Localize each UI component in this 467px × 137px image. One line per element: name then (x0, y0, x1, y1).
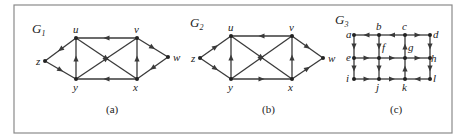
node-label-x: x (132, 81, 138, 93)
node-label-w: w (173, 51, 181, 63)
node-label-d: d (433, 28, 439, 40)
node-label-g: g (408, 41, 414, 53)
node-label-y: y (72, 81, 78, 93)
node-label-x: x (287, 81, 293, 93)
node-label-v: v (134, 23, 139, 35)
node-i (352, 77, 356, 81)
node-d (428, 33, 432, 37)
node-w (166, 55, 170, 59)
node-label-i: i (346, 72, 349, 84)
graph-caption: (b) (262, 103, 275, 116)
node-z (198, 56, 202, 60)
node-label-b: b (376, 20, 382, 32)
node-v (135, 36, 139, 40)
node-u (229, 34, 233, 38)
graph-title-subscript: 2 (199, 23, 203, 32)
node-label-h: h (431, 52, 437, 64)
node-u (74, 36, 78, 40)
node-a (352, 33, 356, 37)
node-c (403, 33, 407, 37)
node-b (377, 33, 381, 37)
node-e (352, 56, 356, 60)
graph-figure: G1zuvwxy(a)G2zuvwxy(b)G3abcdefghijkl(c) (0, 0, 467, 137)
graph-caption: (a) (106, 103, 119, 116)
node-label-v: v (289, 21, 294, 33)
node-z (43, 59, 47, 63)
node-w (321, 56, 325, 60)
node-label-w: w (328, 52, 336, 64)
node-label-l: l (433, 72, 436, 84)
node-g (403, 56, 407, 60)
node-label-a: a (346, 28, 352, 40)
graph-title-subscript: 1 (41, 29, 45, 38)
node-label-y: y (227, 81, 233, 93)
node-label-z: z (190, 52, 196, 64)
node-label-u: u (73, 23, 79, 35)
node-v (290, 34, 294, 38)
node-f (377, 56, 381, 60)
node-label-z: z (35, 55, 41, 67)
node-label-u: u (228, 21, 234, 33)
node-l (428, 77, 432, 81)
node-label-e: e (346, 51, 351, 63)
graph-caption: (c) (390, 103, 403, 116)
node-label-c: c (402, 20, 407, 32)
